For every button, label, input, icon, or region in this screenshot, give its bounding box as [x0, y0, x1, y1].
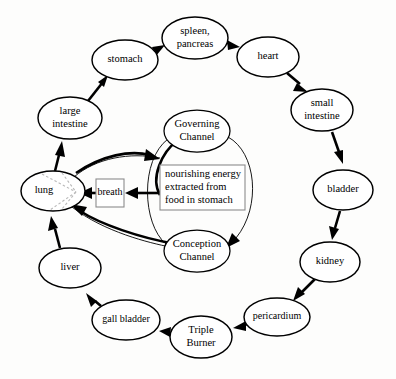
edge-liver-to-lung	[48, 216, 60, 248]
node-governing-channel-label-line1: Governing	[175, 118, 221, 129]
node-triple-burner-label-line1: Triple	[188, 324, 214, 335]
box-breath[interactable]: breath	[96, 179, 124, 207]
diagram-svg: stomach spleen, pancreas heart small int…	[0, 0, 396, 379]
node-triple-burner[interactable]: Triple Burner	[170, 316, 232, 358]
node-bladder-label: bladder	[327, 183, 359, 194]
edge-bladder-to-kidney	[329, 211, 340, 240]
node-spleen-pancreas-label-line2: pancreas	[177, 38, 214, 49]
node-pericardium[interactable]: pericardium	[244, 298, 310, 336]
node-conception-channel-label-line1: Conception	[173, 238, 222, 249]
node-large-intestine-label-line1: large	[60, 105, 81, 116]
edge-small-intestine-to-bladder	[332, 132, 343, 164]
node-governing-channel[interactable]: Governing Channel	[164, 110, 230, 152]
node-small-intestine-label-line2: intestine	[304, 110, 340, 121]
node-conception-channel[interactable]: Conception Channel	[164, 230, 230, 272]
node-stomach[interactable]: stomach	[92, 40, 158, 80]
node-kidney-label: kidney	[316, 255, 345, 266]
node-liver[interactable]: liver	[39, 248, 101, 288]
node-small-intestine-label-line1: small	[311, 97, 334, 108]
node-large-intestine-label-line2: intestine	[52, 118, 88, 129]
node-governing-channel-label-line2: Channel	[180, 131, 215, 142]
box-nourishing-energy[interactable]: nourishing energy extracted from food in…	[160, 165, 245, 210]
diagram-canvas: stomach spleen, pancreas heart small int…	[0, 0, 396, 379]
node-liver-label: liver	[60, 261, 80, 272]
box-nourishing-energy-line1: nourishing energy	[165, 168, 242, 179]
box-nourishing-energy-line2: extracted from	[165, 181, 227, 192]
node-lung-label: lung	[35, 184, 54, 195]
node-large-intestine[interactable]: large intestine	[38, 97, 102, 139]
node-small-intestine[interactable]: small intestine	[291, 89, 353, 131]
node-stomach-label: stomach	[108, 53, 144, 64]
node-spleen-pancreas-label-line1: spleen,	[180, 25, 209, 36]
edge-nourishing-to-breath	[125, 187, 160, 199]
edge-heart-to-small-intestine	[287, 73, 308, 92]
node-heart[interactable]: heart	[237, 37, 299, 77]
edge-large-intestine-to-stomach	[88, 75, 108, 101]
box-breath-label: breath	[98, 186, 123, 197]
box-nourishing-energy-line3: food in stomach	[165, 194, 233, 205]
node-gall-bladder[interactable]: gall bladder	[92, 300, 160, 340]
edge-lung-to-large-intestine	[55, 141, 65, 171]
edge-kidney-to-pericardium	[293, 279, 315, 301]
node-spleen-pancreas[interactable]: spleen, pancreas	[162, 17, 228, 59]
node-lung[interactable]: lung	[21, 171, 85, 211]
node-triple-burner-label-line2: Burner	[186, 337, 216, 348]
node-kidney[interactable]: kidney	[300, 242, 360, 282]
edge-gall-bladder-to-liver	[86, 293, 101, 307]
node-bladder[interactable]: bladder	[313, 170, 373, 210]
node-pericardium-label: pericardium	[253, 310, 302, 321]
node-gall-bladder-label: gall bladder	[102, 313, 150, 324]
node-conception-channel-label-line2: Channel	[180, 251, 215, 262]
node-heart-label: heart	[258, 50, 279, 61]
